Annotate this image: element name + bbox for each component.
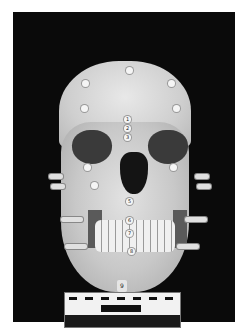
midline-marker-5: 5 [126, 198, 133, 205]
marker-zygomatic-left [91, 182, 98, 189]
marker-frontal-right [168, 80, 175, 87]
midline-marker-7: 7 [126, 230, 133, 237]
marker-frontal-left [82, 80, 89, 87]
marker-supraorbital-right [173, 105, 180, 112]
midline-marker-6: 6 [126, 217, 133, 224]
peg-left-3 [61, 217, 83, 222]
peg-left-4 [65, 244, 87, 249]
marker-infraorbital-left [84, 164, 91, 171]
scale-bar [64, 292, 181, 328]
midline-marker-1: 1 [124, 116, 131, 123]
left-orbit [72, 130, 112, 164]
right-lateral-cavity [173, 210, 187, 248]
teeth [95, 220, 175, 252]
marker-supraorbital-left [81, 105, 88, 112]
scale-ruler [69, 297, 175, 300]
peg-right-1 [195, 174, 209, 179]
scale-black-bar [101, 305, 141, 312]
marker-infraorbital-right [170, 164, 177, 171]
peg-left-2 [51, 184, 65, 189]
peg-left-1 [49, 174, 63, 179]
midline-marker-2: 2 [124, 125, 131, 132]
midline-marker-3: 3 [124, 134, 131, 141]
midline-marker-8: 8 [128, 248, 135, 255]
scale-bottom-band [65, 315, 180, 327]
peg-right-4 [177, 244, 199, 249]
midline-marker-9: 9 [117, 280, 127, 292]
peg-right-3 [185, 217, 207, 222]
skull-photo: 1 2 3 5 6 7 8 9 [13, 12, 235, 322]
right-orbit [148, 130, 188, 164]
peg-right-2 [197, 184, 211, 189]
marker-vertex [126, 67, 133, 74]
